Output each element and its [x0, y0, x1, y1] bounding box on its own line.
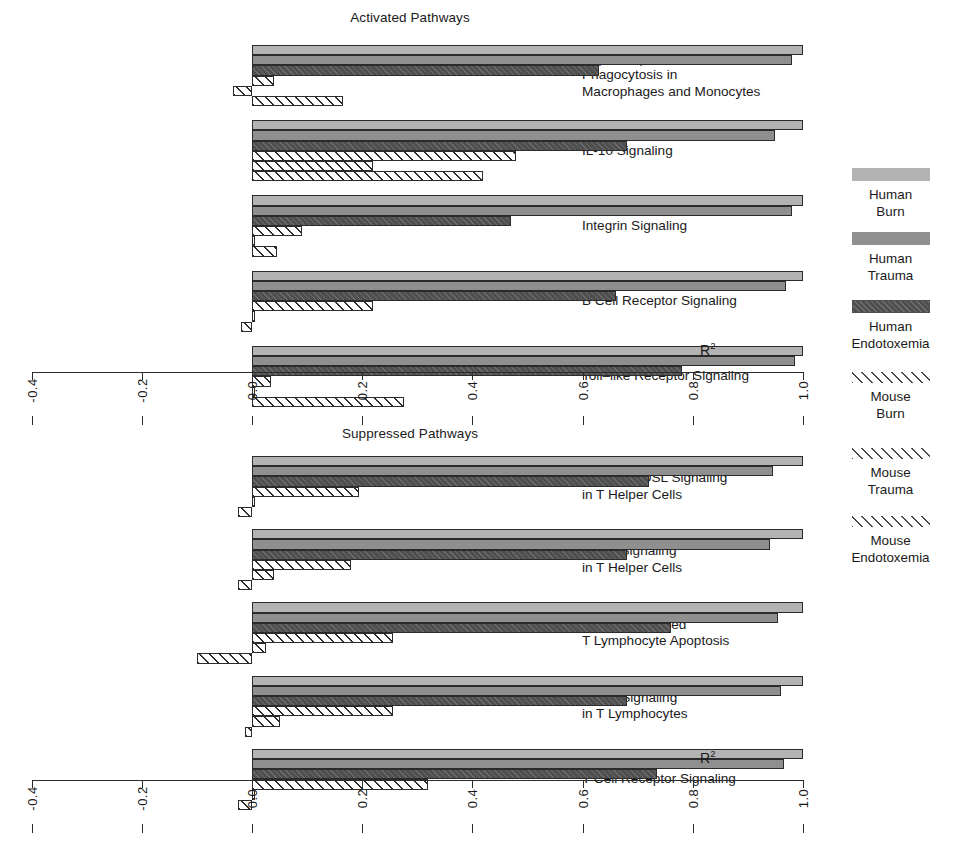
axis-tick-outer [803, 824, 804, 833]
legend-item-human-endotoxemia[interactable]: Human Endotoxemia [828, 300, 953, 352]
axis-tick-label: 0.0 [245, 782, 260, 816]
bar-group: Integrin Signaling [0, 195, 820, 256]
bar-human-burn [252, 120, 803, 130]
axis-tick-outer [252, 824, 253, 833]
axis-tick-label: -0.4 [24, 374, 39, 408]
bar-human-burn [252, 749, 803, 759]
bar-group: iCOS—iCOSL Signaling in T Helper Cells [0, 456, 820, 517]
bar-human-trauma [252, 539, 770, 549]
bar-human-trauma [252, 55, 792, 65]
bar-human-burn [252, 195, 803, 205]
panel-title-activated: Activated Pathways [0, 10, 820, 25]
bar-human-trauma [252, 686, 781, 696]
axis-tick-label: -0.2 [134, 782, 149, 816]
bar-human-trauma [252, 613, 778, 623]
bar-group: Fcγ Receptor–mediated Phagocytosis in Ma… [0, 45, 820, 106]
axis-tick-label: -0.2 [134, 374, 149, 408]
legend-label: Mouse Endotoxemia [828, 533, 953, 566]
bar-human-burn [252, 676, 803, 686]
legend-label: Mouse Burn [828, 389, 953, 422]
axis-tick-outer [362, 824, 363, 833]
axis-tick-label: 0.2 [355, 374, 370, 408]
bar-mouse-endotoxemia [241, 322, 252, 332]
legend-swatch [852, 232, 930, 245]
bar-human-endotoxemia [252, 769, 657, 779]
panel-activated-pathways: Activated Pathways Fcγ Receptor–mediated… [0, 0, 820, 420]
axis-tick-label: 0.8 [685, 782, 700, 816]
axis-tick-label: -0.4 [24, 782, 39, 816]
bar-mouse-burn [252, 301, 373, 311]
bar-mouse-trauma [252, 161, 373, 171]
bar-mouse-burn [252, 560, 351, 570]
legend: Human BurnHuman TraumaHuman EndotoxemiaM… [828, 0, 953, 856]
bar-human-burn [252, 529, 803, 539]
panel-title-suppressed: Suppressed Pathways [0, 426, 820, 441]
bar-mouse-trauma [252, 570, 274, 580]
bar-human-trauma [252, 281, 786, 291]
bar-human-burn [252, 346, 803, 356]
bar-mouse-trauma [252, 643, 266, 653]
bar-mouse-burn [252, 226, 302, 236]
axis-tick-label: 1.0 [796, 782, 811, 816]
bar-mouse-trauma [252, 497, 255, 507]
bar-human-endotoxemia [252, 696, 627, 706]
bar-mouse-trauma [252, 716, 280, 726]
bar-mouse-endotoxemia [238, 580, 252, 590]
bar-mouse-trauma [252, 236, 255, 246]
legend-label: Mouse Trauma [828, 465, 953, 498]
legend-item-human-trauma[interactable]: Human Trauma [828, 232, 953, 284]
axis-tick-label: 0.4 [465, 782, 480, 816]
bar-human-endotoxemia [252, 65, 599, 75]
figure-root: Activated Pathways Fcγ Receptor–mediated… [0, 0, 953, 856]
bar-group: Calcium–induced T Lymphocyte Apoptosis [0, 602, 820, 663]
bar-group: IL-10 Signaling [0, 120, 820, 181]
legend-swatch [852, 516, 930, 527]
legend-swatch [852, 168, 930, 181]
bar-mouse-endotoxemia [252, 246, 277, 256]
bar-human-burn [252, 456, 803, 466]
bar-mouse-burn [252, 706, 393, 716]
x-axis-suppressed: -0.4-0.20.00.20.40.60.81.0R2 [0, 780, 820, 850]
category-label: Integrin Signaling [582, 218, 820, 234]
legend-swatch [852, 448, 930, 459]
axis-tick-outer [142, 824, 143, 833]
legend-label: Human Trauma [828, 251, 953, 284]
axis-tick-outer [472, 824, 473, 833]
bar-human-trauma [252, 130, 775, 140]
axis-tick-label: 0.8 [685, 374, 700, 408]
legend-label: Human Endotoxemia [828, 319, 953, 352]
axis-tick-label: 0.6 [575, 782, 590, 816]
bar-human-endotoxemia [252, 291, 616, 301]
bar-human-burn [252, 271, 803, 281]
bar-human-burn [252, 45, 803, 55]
legend-label: Human Burn [828, 187, 953, 220]
axis-tick-label: 1.0 [796, 374, 811, 408]
axis-tick-outer [583, 824, 584, 833]
bar-mouse-trauma [233, 86, 252, 96]
legend-item-mouse-burn[interactable]: Mouse Burn [828, 372, 953, 422]
bar-human-endotoxemia [252, 216, 511, 226]
axis-tick-outer [32, 824, 33, 833]
legend-swatch [852, 372, 930, 383]
bar-mouse-trauma [252, 311, 255, 321]
axis-tick-label: 0.2 [355, 782, 370, 816]
axis-tick-label: 0.0 [245, 374, 260, 408]
axis-label-r-squared: R2 [700, 340, 715, 358]
bar-mouse-endotoxemia [252, 171, 483, 181]
bar-mouse-endotoxemia [197, 653, 252, 663]
bar-human-endotoxemia [252, 623, 671, 633]
axis-tick-outer [693, 824, 694, 833]
legend-item-mouse-trauma[interactable]: Mouse Trauma [828, 448, 953, 498]
bar-mouse-burn [252, 633, 393, 643]
legend-item-human-burn[interactable]: Human Burn [828, 168, 953, 220]
bar-human-endotoxemia [252, 141, 627, 151]
panel-suppressed-pathways: Suppressed Pathways iCOS—iCOSL Signaling… [0, 418, 820, 856]
axis-tick-label: 0.4 [465, 374, 480, 408]
bar-human-endotoxemia [252, 550, 627, 560]
legend-item-mouse-endotoxemia[interactable]: Mouse Endotoxemia [828, 516, 953, 566]
bar-human-endotoxemia [252, 476, 649, 486]
category-label: B Cell Receptor Signaling [582, 293, 820, 309]
legend-swatch [852, 300, 930, 313]
bar-human-trauma [252, 206, 792, 216]
bar-group: CD28 Signaling in T Helper Cells [0, 529, 820, 590]
